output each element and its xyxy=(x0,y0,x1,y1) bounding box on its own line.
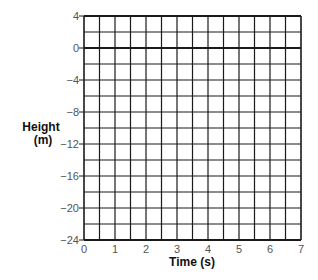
x-tick-label: 7 xyxy=(298,243,304,255)
y-tick-label: −4 xyxy=(66,74,79,86)
x-tick-label: 6 xyxy=(267,243,273,255)
y-tick-label: 4 xyxy=(73,10,79,22)
x-tick-label: 0 xyxy=(81,243,87,255)
y-tick-label: −8 xyxy=(66,106,79,118)
y-tick-label: −24 xyxy=(60,234,79,246)
x-tick-label: 4 xyxy=(205,243,211,255)
y-axis-tick-labels: 40−4−8−12−16−20−24 xyxy=(60,10,79,246)
y-axis-title-line2: (m) xyxy=(34,133,53,147)
x-axis-tick-labels: 01234567 xyxy=(81,243,304,255)
x-tick-label: 5 xyxy=(236,243,242,255)
x-tick-label: 2 xyxy=(143,243,149,255)
grid-lines xyxy=(79,16,301,240)
y-tick-label: −16 xyxy=(60,170,79,182)
x-tick-label: 1 xyxy=(112,243,118,255)
x-axis-title: Time (s) xyxy=(169,255,215,269)
y-tick-label: 0 xyxy=(73,42,79,54)
x-tick-label: 3 xyxy=(174,243,180,255)
y-axis-title-line1: Height xyxy=(22,120,59,134)
y-tick-label: −20 xyxy=(60,202,79,214)
y-tick-label: −12 xyxy=(60,138,79,150)
blank-graph-grid: 40−4−8−12−16−20−24 01234567 Height (m) T… xyxy=(0,0,318,280)
